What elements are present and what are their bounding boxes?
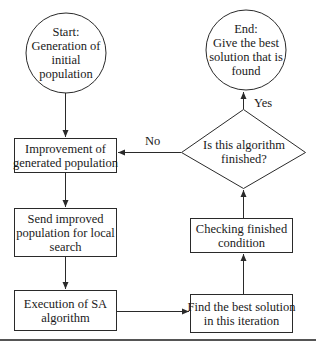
send-node-line: Send improved [16, 212, 115, 226]
improve-node-line: Improvement of [13, 142, 118, 156]
improve-node-line: generated population [13, 156, 118, 170]
start-node-line: Generation of [31, 39, 100, 53]
end-node-line: found [209, 64, 283, 78]
send-node: Send improved population for local searc… [14, 208, 117, 257]
checking-node-line: condition [196, 236, 287, 250]
improve-node: Improvement of generated population [14, 138, 117, 173]
execution-node-line: Execution of SA [24, 297, 107, 311]
end-node: End: Give the best solution that is foun… [206, 10, 286, 90]
edge-label-yes: Yes [254, 96, 272, 111]
decision-node-line: finished? [203, 152, 285, 166]
checking-node: Checking finished condition [190, 218, 293, 253]
start-node-line: initial [31, 53, 100, 67]
decision-node: Is this algorithm finished? [190, 135, 298, 169]
start-node: Start: Generation of initial population [26, 13, 106, 93]
decision-node-line: Is this algorithm [203, 138, 285, 152]
execution-node-line: algorithm [24, 311, 107, 325]
end-node-line: solution that is [209, 50, 283, 64]
bottom-rule [0, 339, 316, 341]
send-node-line: search [16, 240, 115, 254]
edge-label-no: No [145, 134, 160, 149]
end-node-line: End: [209, 22, 283, 36]
checking-node-line: Checking finished [196, 222, 287, 236]
findbest-node-line: in this iteration [188, 314, 296, 328]
start-node-line: population [31, 67, 100, 81]
send-node-line: population for local [16, 226, 115, 240]
end-node-line: Give the best [209, 36, 283, 50]
execution-node: Execution of SA algorithm [14, 290, 117, 331]
findbest-node-line: Find the best solution [188, 300, 296, 314]
findbest-node: Find the best solution in this iteration [190, 294, 293, 333]
start-node-line: Start: [31, 25, 100, 39]
